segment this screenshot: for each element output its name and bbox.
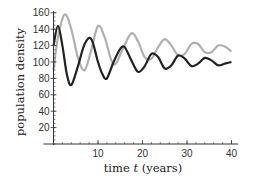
x-tick-label: 40 <box>226 148 238 159</box>
x-tick-label: 20 <box>137 148 149 159</box>
black-population-curve <box>54 26 232 85</box>
y-tick-label: 20 <box>38 122 50 133</box>
y-tick-label: 60 <box>38 89 50 100</box>
y-tick-label: 120 <box>33 40 50 51</box>
y-tick-label: 40 <box>38 106 50 117</box>
plot-area <box>54 14 232 85</box>
y-axis-title: population density <box>13 27 27 136</box>
x-tick-label: 30 <box>181 148 193 159</box>
y-tick-label: 80 <box>38 73 50 84</box>
x-axis-title: time t (years) <box>104 161 182 175</box>
chart: 1020304020406080100120140160 population … <box>0 0 253 187</box>
y-tick-label: 140 <box>33 24 50 35</box>
x-tick-label: 10 <box>92 148 104 159</box>
y-tick-label: 100 <box>33 57 50 68</box>
axes: 1020304020406080100120140160 <box>33 7 238 159</box>
y-tick-label: 160 <box>33 7 50 18</box>
